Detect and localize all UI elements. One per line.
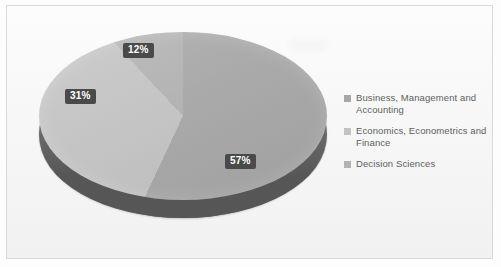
legend-item-label: Economics, Econometrics and Finance [356, 125, 492, 149]
chart-frame: 57% 31% 12% Business, Management and Acc… [6, 5, 493, 259]
pie-chart-graphic [39, 28, 329, 218]
legend-swatch-icon [344, 95, 351, 102]
legend-item-label: Business, Management and Accounting [356, 92, 492, 116]
legend-item-business[interactable]: Business, Management and Accounting [344, 92, 492, 116]
legend-swatch-icon [344, 161, 351, 168]
pie-data-label-business: 57% [225, 154, 256, 169]
legend-item-label: Decision Sciences [356, 158, 435, 170]
legend-item-economics[interactable]: Economics, Econometrics and Finance [344, 125, 492, 149]
pie-slices[interactable] [39, 32, 327, 200]
pie-data-label-economics: 31% [65, 89, 96, 104]
legend-item-decision-sciences[interactable]: Decision Sciences [344, 158, 492, 170]
legend-swatch-icon [344, 128, 351, 135]
chart-screenshot: 57% 31% 12% Business, Management and Acc… [0, 0, 501, 267]
pie-data-label-decision-sciences: 12% [123, 43, 154, 58]
chart-legend: Business, Management and Accounting Econ… [344, 92, 492, 179]
